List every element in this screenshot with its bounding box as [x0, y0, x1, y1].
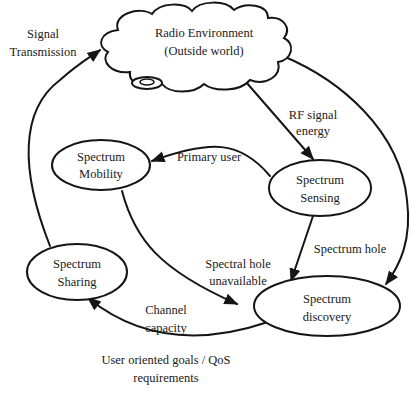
- node-radio-environment-line1: Radio Environment: [155, 26, 254, 40]
- node-spectrum-sensing-line1: Spectrum: [296, 173, 344, 187]
- node-spectrum-sharing-line1: Spectrum: [53, 257, 101, 271]
- label-signal-transmission-line2: Transmission: [10, 45, 78, 59]
- node-spectrum-sensing: Spectrum Sensing: [269, 160, 371, 216]
- label-channel-capacity-line1: Channel: [145, 303, 187, 317]
- node-spectrum-mobility-line1: Spectrum: [77, 150, 125, 164]
- node-radio-environment: Radio Environment (Outside world): [101, 3, 291, 92]
- node-spectrum-sharing: Spectrum Sharing: [27, 244, 127, 300]
- label-channel-capacity-line2: capacity: [145, 321, 187, 335]
- ellipse-spectrum-discovery: [254, 276, 400, 336]
- label-primary-user: Primary user: [177, 150, 242, 164]
- node-spectrum-mobility: Spectrum Mobility: [52, 140, 150, 190]
- node-radio-environment-line2: (Outside world): [164, 44, 244, 58]
- node-spectrum-sensing-line2: Sensing: [300, 191, 340, 205]
- node-spectrum-discovery-line1: Spectrum: [303, 292, 351, 306]
- ellipse-spectrum-sensing: [269, 160, 371, 216]
- label-spectral-hole-line1: Spectral hole: [205, 257, 271, 271]
- ellipse-spectrum-sharing: [27, 244, 127, 300]
- cognitive-cycle-diagram: Radio Environment (Outside world) Spectr…: [0, 0, 415, 393]
- ellipse-spectrum-mobility: [52, 140, 150, 190]
- label-rf-signal-line1: RF signal: [289, 108, 338, 122]
- node-spectrum-discovery-line2: discovery: [303, 310, 352, 324]
- node-spectrum-sharing-line2: Sharing: [58, 275, 98, 289]
- label-spectrum-hole: Spectrum hole: [314, 242, 387, 256]
- node-spectrum-discovery: Spectrum discovery: [254, 276, 400, 336]
- edge-spectrum-hole: [291, 216, 313, 281]
- label-rf-signal-line2: energy: [296, 124, 331, 138]
- label-signal-transmission-line1: Signal: [27, 27, 59, 41]
- footer-goals-line1: User oriented goals / QoS: [101, 353, 230, 367]
- node-spectrum-mobility-line2: Mobility: [79, 167, 124, 181]
- label-spectral-hole-line2: unavailable: [209, 274, 267, 288]
- footer-goals-line2: requirements: [133, 371, 198, 385]
